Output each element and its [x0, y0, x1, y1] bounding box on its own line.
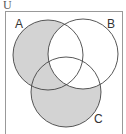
set-a-label: A	[15, 17, 23, 31]
venn-diagram: A B C	[0, 0, 126, 134]
set-c-label: C	[94, 112, 103, 126]
set-b-label: B	[107, 17, 115, 31]
